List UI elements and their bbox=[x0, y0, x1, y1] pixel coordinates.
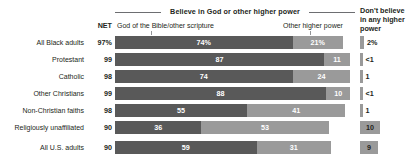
row-net-value: 98 bbox=[86, 106, 112, 115]
bar-value-god-of-bible: 55 bbox=[115, 104, 247, 117]
row-label: All Black adults bbox=[0, 38, 84, 47]
net-column-header: NET bbox=[86, 21, 112, 30]
bar-value-other-higher-power: 21% bbox=[293, 36, 343, 49]
row-label: Catholic bbox=[0, 72, 90, 81]
bar-segment-dont-believe bbox=[360, 87, 363, 100]
row-bar: 74%21% bbox=[115, 36, 343, 49]
row-bar: 8711 bbox=[115, 53, 350, 66]
bar-value-other-higher-power: 31 bbox=[257, 141, 331, 154]
bar-value-god-of-bible: 88 bbox=[115, 87, 326, 100]
right-column-header: Don't believe in any higher power bbox=[360, 6, 408, 33]
bar-value-god-of-bible: 59 bbox=[115, 141, 257, 154]
segment-tick-light bbox=[310, 31, 311, 35]
table-row: All Black adults97%74%21%2% bbox=[0, 36, 409, 49]
bar-value-other-higher-power: 24 bbox=[293, 70, 351, 83]
bar-value-dont-believe: <1 bbox=[366, 53, 374, 66]
row-bar: 7424 bbox=[115, 70, 350, 83]
bar-value-dont-believe: 2% bbox=[367, 36, 377, 49]
bar-value-other-higher-power: 11 bbox=[324, 53, 350, 66]
segment-label-dark: God of the Bible/other scripture bbox=[117, 21, 214, 30]
row-label: All U.S. adults bbox=[0, 143, 84, 152]
bar-segment-dont-believe bbox=[360, 36, 364, 49]
row-net-value: 97% bbox=[86, 38, 112, 47]
table-row: Other Christians998810<1 bbox=[0, 87, 409, 100]
bar-value-god-of-bible: 87 bbox=[115, 53, 324, 66]
row-bar: 8810 bbox=[115, 87, 350, 100]
stacked-bar-chart: Believe in God or other higher power NET… bbox=[0, 0, 409, 154]
bar-value-other-higher-power: 10 bbox=[326, 87, 350, 100]
bar-value-god-of-bible: 74% bbox=[115, 36, 293, 49]
bar-segment-dont-believe bbox=[360, 104, 363, 117]
row-bar: 5541 bbox=[115, 104, 345, 117]
bar-segment-dont-believe bbox=[360, 53, 363, 66]
segment-label-light: Other higher power bbox=[283, 21, 343, 30]
row-label: Non-Christian faiths bbox=[0, 106, 90, 115]
table-row: Non-Christian faiths9855411 bbox=[0, 104, 409, 117]
row-label: Religiously unaffiliated bbox=[0, 123, 90, 132]
table-row: All U.S. adults9059319 bbox=[0, 141, 409, 154]
row-net-value: 90 bbox=[86, 143, 112, 152]
bar-value-dont-believe: 10 bbox=[360, 121, 380, 134]
row-net-value: 90 bbox=[86, 123, 112, 132]
bar-value-other-higher-power: 53 bbox=[201, 121, 328, 134]
bar-value-dont-believe: 1 bbox=[366, 104, 370, 117]
chart-bracket-header: Believe in God or other higher power bbox=[115, 7, 355, 17]
bar-value-dont-believe: 1 bbox=[366, 70, 370, 83]
bar-value-god-of-bible: 36 bbox=[115, 121, 201, 134]
bracket-title: Believe in God or other higher power bbox=[115, 7, 355, 17]
row-net-value: 99 bbox=[86, 55, 112, 64]
row-net-value: 99 bbox=[86, 89, 112, 98]
row-net-value: 98 bbox=[86, 72, 112, 81]
bar-value-dont-believe: <1 bbox=[366, 87, 374, 100]
row-bar: 3653 bbox=[115, 121, 329, 134]
table-row: Protestant998711<1 bbox=[0, 53, 409, 66]
bar-value-god-of-bible: 74 bbox=[115, 70, 293, 83]
bar-value-other-higher-power: 41 bbox=[247, 104, 345, 117]
bar-segment-dont-believe bbox=[360, 70, 363, 83]
row-bar: 5931 bbox=[115, 141, 331, 154]
row-label: Other Christians bbox=[0, 89, 90, 98]
bar-value-dont-believe: 9 bbox=[360, 141, 378, 154]
segment-tick-dark bbox=[151, 31, 152, 35]
row-label: Protestant bbox=[0, 55, 90, 64]
table-row: Catholic9874241 bbox=[0, 70, 409, 83]
table-row: Religiously unaffiliated90365310 bbox=[0, 121, 409, 134]
